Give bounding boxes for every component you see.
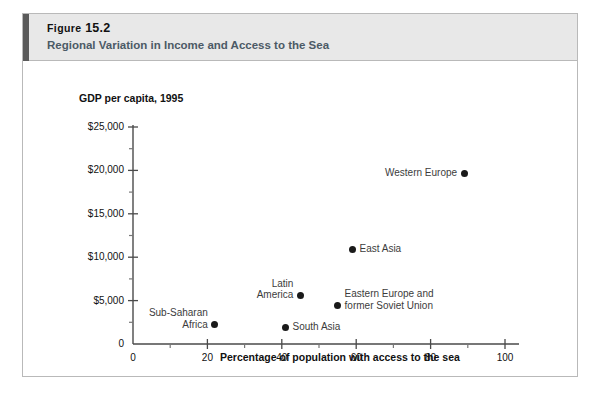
data-point: [297, 292, 304, 299]
figure-number: Figure 15.2: [47, 21, 110, 35]
x-tick-label: 80: [406, 352, 456, 363]
data-point-label: Sub-SaharanAfrica: [23, 307, 208, 330]
data-point: [461, 170, 468, 177]
x-tick-label: 20: [182, 352, 232, 363]
y-tick-label: $10,000: [49, 251, 124, 262]
y-tick-label: $25,000: [49, 121, 124, 132]
y-tick-label: $15,000: [49, 208, 124, 219]
data-point-label: East Asia: [359, 243, 401, 255]
data-point: [282, 324, 289, 331]
data-point-label: Western Europe: [23, 167, 457, 179]
data-point-label: LatinAmerica: [23, 278, 293, 301]
data-point-label: Eastern Europe andformer Soviet Union: [345, 288, 434, 311]
y-tick-label: 0: [49, 338, 124, 349]
data-point: [349, 246, 356, 253]
figure-container: Figure 15.2 Regional Variation in Income…: [22, 13, 578, 377]
x-tick-label: 0: [108, 352, 158, 363]
figure-title: Regional Variation in Income and Access …: [47, 39, 329, 51]
figure-number-prefix: Figure: [47, 22, 82, 34]
header-accent-bar: [23, 14, 29, 61]
figure-number-value: 15.2: [85, 21, 110, 35]
x-tick-label: 100: [480, 352, 530, 363]
chart-plot-area: GDP per capita, 1995 Percentage of popul…: [23, 61, 577, 377]
x-tick-label: 60: [331, 352, 381, 363]
figure-header: Figure 15.2 Regional Variation in Income…: [23, 14, 577, 61]
x-tick-label: 40: [257, 352, 307, 363]
data-point-label: South Asia: [293, 321, 341, 333]
